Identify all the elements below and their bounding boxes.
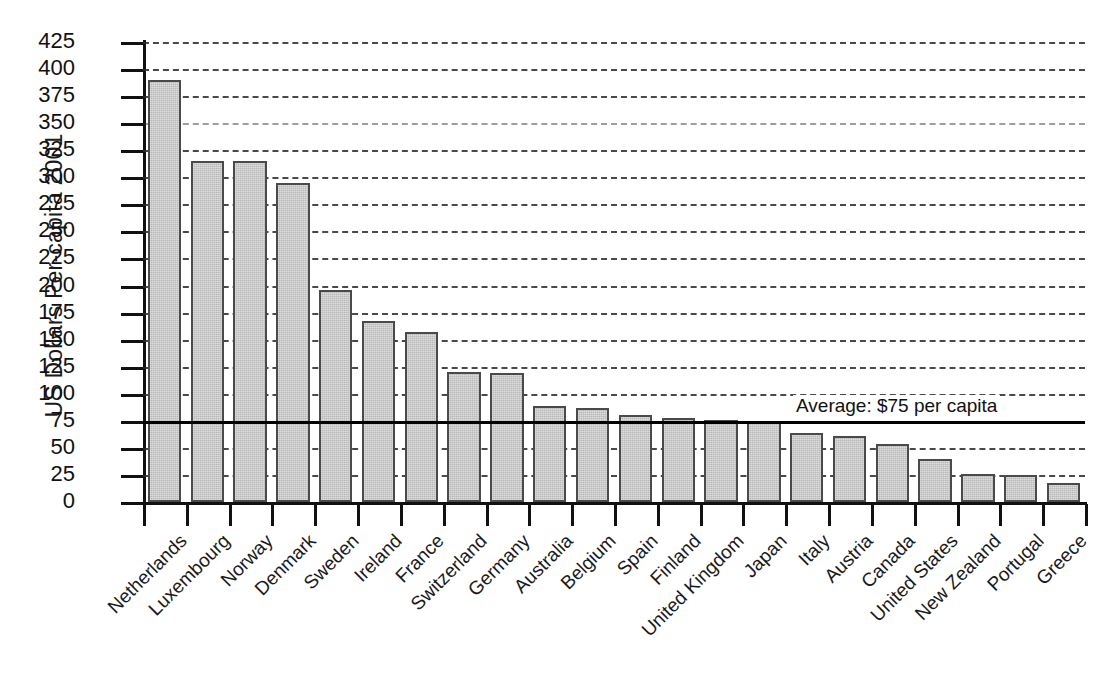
y-tick-label-375: 375 (15, 84, 75, 106)
y-tick-label-75: 75 (15, 409, 75, 431)
y-tick-label-125: 125 (15, 355, 75, 377)
y-tick-50 (121, 448, 145, 451)
y-tick-100 (121, 394, 145, 397)
y-tick-label-425: 425 (15, 30, 75, 52)
x-tick (528, 504, 531, 526)
x-tick (571, 504, 574, 526)
x-tick (400, 504, 403, 526)
x-tick (914, 504, 917, 526)
bar (918, 459, 951, 502)
y-tick-label-350: 350 (15, 111, 75, 133)
y-tick-375 (121, 96, 145, 99)
y-tick-125 (121, 367, 145, 370)
gridline-300 (143, 177, 1085, 179)
bar (790, 433, 823, 502)
bar (704, 420, 737, 502)
y-tick-350 (121, 123, 145, 126)
average-line (143, 421, 1085, 424)
y-tick-300 (121, 177, 145, 180)
gridline-350 (143, 123, 1085, 125)
x-tick (785, 504, 788, 526)
x-tick (271, 504, 274, 526)
y-tick-label-250: 250 (15, 219, 75, 241)
bar (490, 373, 523, 502)
bar (1004, 475, 1037, 502)
x-tick (314, 504, 317, 526)
x-tick (357, 504, 360, 526)
bar (191, 161, 224, 502)
bar (961, 474, 994, 502)
y-tick-label-200: 200 (15, 274, 75, 296)
gridline-425 (143, 42, 1085, 44)
bar (1047, 483, 1080, 502)
y-tick-label-325: 325 (15, 138, 75, 160)
y-tick-label-300: 300 (15, 165, 75, 187)
y-tick-400 (121, 69, 145, 72)
y-tick-175 (121, 313, 145, 316)
x-tick (700, 504, 703, 526)
bar (447, 372, 480, 502)
bar (662, 418, 695, 502)
bar (319, 290, 352, 502)
gridline-325 (143, 150, 1085, 152)
x-tick (186, 504, 189, 526)
gridline-400 (143, 69, 1085, 71)
y-tick-label-150: 150 (15, 328, 75, 350)
bar (619, 415, 652, 502)
y-tick-200 (121, 286, 145, 289)
average-line-label: Average: $75 per capita (793, 395, 1000, 417)
x-tick (742, 504, 745, 526)
x-tick (1042, 504, 1045, 526)
bar (876, 444, 909, 502)
bar (276, 183, 309, 502)
y-tick-150 (121, 340, 145, 343)
y-tick-label-275: 275 (15, 192, 75, 214)
y-tick-label-100: 100 (15, 382, 75, 404)
bar (833, 436, 866, 502)
y-tick-label-400: 400 (15, 57, 75, 79)
bar (747, 421, 780, 502)
x-tick (443, 504, 446, 526)
bar (233, 161, 266, 502)
y-tick-label-175: 175 (15, 301, 75, 323)
x-tick (828, 504, 831, 526)
y-tick-0 (121, 502, 145, 505)
bar (362, 321, 395, 502)
y-tick-325 (121, 150, 145, 153)
x-tick (143, 504, 146, 526)
y-tick-25 (121, 475, 145, 478)
y-tick-250 (121, 231, 145, 234)
x-tick (486, 504, 489, 526)
x-tick (614, 504, 617, 526)
bar (405, 332, 438, 502)
y-tick-425 (121, 42, 145, 45)
x-tick (999, 504, 1002, 526)
x-tick (957, 504, 960, 526)
y-tick-225 (121, 258, 145, 261)
x-tick (1085, 504, 1088, 526)
gridline-375 (143, 96, 1085, 98)
x-tick (871, 504, 874, 526)
y-tick-75 (121, 421, 145, 424)
y-tick-275 (121, 204, 145, 207)
bar-chart: US Dollars Per-capita 2001 0255075100125… (0, 0, 1116, 681)
y-tick-label-225: 225 (15, 246, 75, 268)
y-tick-label-0: 0 (15, 490, 75, 512)
x-tick (229, 504, 232, 526)
bar (148, 80, 181, 502)
y-tick-label-50: 50 (15, 436, 75, 458)
plot-area: Average: $75 per capita (143, 42, 1085, 502)
x-tick (657, 504, 660, 526)
y-tick-label-25: 25 (15, 463, 75, 485)
